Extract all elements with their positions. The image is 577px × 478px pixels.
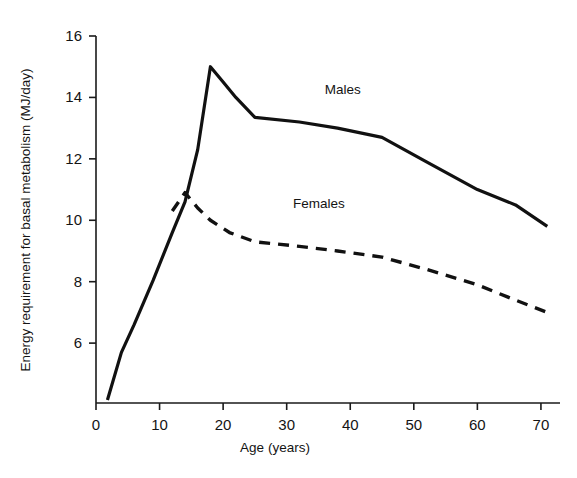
y-axis-title: Energy requirement for basal metabolism …: [18, 68, 33, 371]
y-tick-label: 6: [74, 334, 82, 351]
x-tick-label: 40: [342, 416, 359, 433]
x-tick-label: 50: [405, 416, 422, 433]
y-tick-label: 14: [65, 88, 82, 105]
x-tick-label: 10: [151, 416, 168, 433]
chart-svg: 6810121416 010203040506070 Males Females…: [0, 0, 577, 478]
x-tick-label: 0: [92, 416, 100, 433]
x-tick-label: 70: [533, 416, 550, 433]
y-tick-label: 8: [74, 273, 82, 290]
chart-background: [0, 0, 577, 478]
x-tick-label: 60: [469, 416, 486, 433]
x-axis-title: Age (years): [240, 440, 310, 455]
y-tick-label: 16: [65, 27, 82, 44]
series-label-males: Males: [325, 82, 361, 97]
y-tick-label: 10: [65, 211, 82, 228]
x-tick-label: 20: [215, 416, 232, 433]
series-label-females: Females: [293, 196, 345, 211]
x-tick-label: 30: [278, 416, 295, 433]
y-tick-label: 12: [65, 150, 82, 167]
basal-metabolism-chart: 6810121416 010203040506070 Males Females…: [0, 0, 577, 478]
